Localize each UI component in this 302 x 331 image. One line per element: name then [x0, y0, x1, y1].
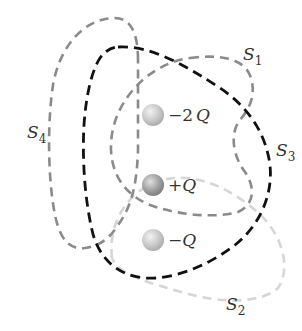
surface-subscript: 1 — [255, 54, 263, 68]
surface-subscript: 3 — [288, 150, 296, 164]
charge-symbol: Q — [182, 230, 196, 250]
charge-sign: + — [168, 175, 182, 195]
surface-subscript: 2 — [238, 304, 246, 318]
charge-symbol: Q — [196, 105, 210, 125]
charge-sphere-icon — [142, 174, 164, 196]
surface-label-s2: S2 — [226, 294, 245, 318]
surface-label-s3: S3 — [276, 140, 295, 164]
charge-plus-q: +Q — [142, 174, 196, 196]
surface-label-s1: S1 — [243, 44, 262, 68]
charge-sphere-icon — [142, 229, 164, 251]
charge-minus-q: −Q — [142, 229, 196, 251]
surface-label-s4: S4 — [27, 122, 47, 146]
surface-letter: S — [226, 294, 238, 314]
surface-subscript: 4 — [39, 132, 47, 146]
charge-sign: − — [168, 230, 182, 250]
charge-magnitude: 2 — [182, 105, 193, 125]
surface-s4-curve — [49, 18, 138, 248]
charge-sphere-icon — [142, 104, 164, 126]
charge-sign: − — [168, 105, 182, 125]
surface-letter: S — [27, 122, 39, 142]
charge-label: +Q — [168, 175, 196, 195]
charge-minus-2q: −2Q — [142, 104, 210, 126]
surface-letter: S — [276, 140, 288, 160]
charge-symbol: Q — [182, 175, 196, 195]
charge-label: −Q — [168, 230, 196, 250]
charge-label: −2Q — [168, 105, 210, 125]
gaussian-surfaces-diagram: −2Q +Q −Q S1 S2 S3 S4 — [0, 0, 302, 331]
surface-s2-curve — [111, 178, 284, 301]
surface-letter: S — [243, 44, 255, 64]
